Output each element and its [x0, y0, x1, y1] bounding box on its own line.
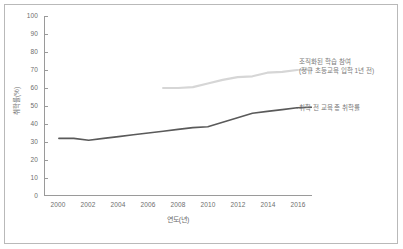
x-tick-label: 2004: [103, 201, 133, 208]
y-tick-label: 30: [16, 138, 38, 145]
x-tick-label: 2012: [223, 201, 253, 208]
series-annotation-preprimary-enrollment: 취학 전 교육 총 취학률: [299, 104, 360, 113]
y-tick-label: 90: [16, 30, 38, 37]
plot-area: [44, 16, 312, 196]
y-tick-label: 0: [16, 192, 38, 199]
x-axis-label: 연도(년): [44, 214, 312, 224]
series-line-organized-learning: [163, 70, 297, 88]
y-tick-label: 100: [16, 12, 38, 19]
x-tick-label: 2016: [283, 201, 313, 208]
x-tick-label: 2014: [253, 201, 283, 208]
annotation-line-1: 취학 전 교육 총 취학률: [299, 104, 360, 113]
series-annotation-organized-learning: 조직화된 학습 참여 (정규 초등교육 입학 1년 전): [299, 58, 374, 75]
x-tick-label: 2002: [73, 201, 103, 208]
annotation-line-1: 조직화된 학습 참여: [299, 58, 374, 67]
chart-figure: 100 90 80 70 60 50 40 30 20 10 0 2000 20…: [0, 0, 403, 249]
y-tick-label: 10: [16, 174, 38, 181]
x-tick-label: 2008: [163, 201, 193, 208]
y-tick-label: 70: [16, 66, 38, 73]
chart-canvas: [44, 16, 312, 196]
y-axis-label: 취학률(%): [11, 78, 21, 124]
x-tick-label: 2006: [133, 201, 163, 208]
y-tick-label: 20: [16, 156, 38, 163]
annotation-line-2: (정규 초등교육 입학 1년 전): [299, 67, 374, 76]
y-tick-label: 80: [16, 48, 38, 55]
series-line-preprimary-enrollment: [59, 108, 297, 140]
x-tick-label: 2010: [193, 201, 223, 208]
x-tick-label: 2000: [43, 201, 73, 208]
